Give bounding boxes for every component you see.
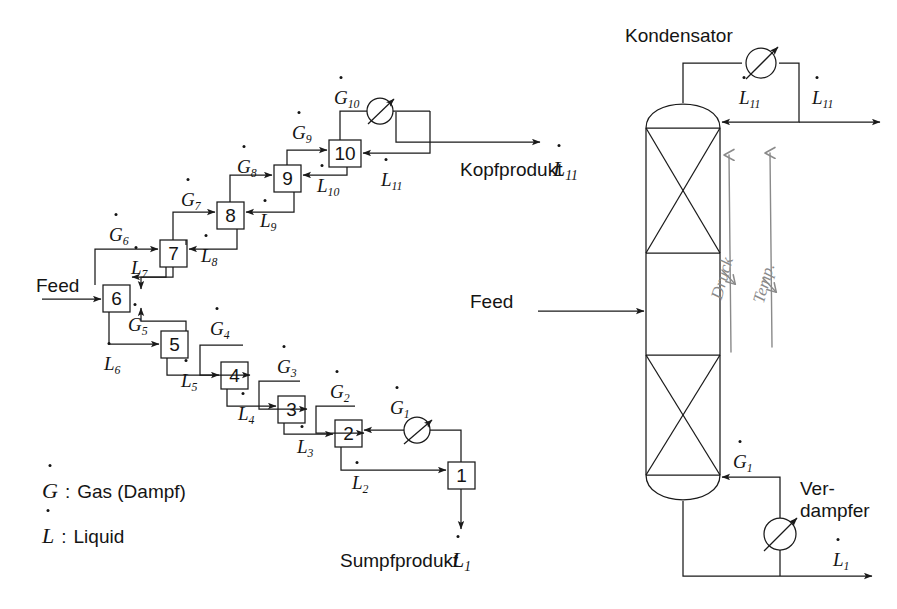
stage-label-1: 1 xyxy=(448,462,475,489)
stage-label-3: 3 xyxy=(278,396,305,423)
stream-symbol-G7: G7 xyxy=(181,190,201,213)
stage-label-7: 7 xyxy=(160,240,187,267)
reboiler-exchanger-column xyxy=(764,518,797,551)
stream-G5 xyxy=(141,308,186,331)
stream-symbol-L11-cascade: L11 xyxy=(381,170,402,193)
stream-symbol-L6: L6 xyxy=(104,354,120,377)
stream-L3 xyxy=(284,423,333,434)
column-packing-upper xyxy=(646,128,720,253)
column-overhead-line xyxy=(683,63,742,103)
stream-L9 xyxy=(246,192,294,212)
legend-row-liquid: L : Liquid xyxy=(42,523,124,549)
legend-colon-liquid: : xyxy=(61,526,66,548)
kopfprodukt-label: Kopfprodukt xyxy=(460,160,562,179)
stream-symbol-G2: G2 xyxy=(330,382,350,405)
reboiler-exchanger-cascade xyxy=(404,417,432,444)
stage-label-10: 10 xyxy=(329,140,361,167)
legend-row-gas: G : Gas (Dampf) xyxy=(42,478,186,504)
stream-L2 xyxy=(341,447,446,470)
stream-symbol-G6: G6 xyxy=(109,225,129,248)
stream-symbol-G4: G4 xyxy=(210,319,230,342)
stage-label-9: 9 xyxy=(274,165,301,192)
sumpfprodukt-label: Sumpfprodukt xyxy=(340,551,458,570)
stream-symbol-G5: G5 xyxy=(128,315,148,338)
dot-accent xyxy=(456,535,459,538)
stage-label-8: 8 xyxy=(217,202,244,229)
kopfprodukt-stream-symbol: L11 xyxy=(553,158,578,183)
legend-symbol-gas: G xyxy=(42,478,58,504)
condenser-exchanger-cascade xyxy=(367,98,394,124)
stage-label-4: 4 xyxy=(221,362,248,389)
stream-symbol-L8: L8 xyxy=(201,246,217,269)
stream-symbol-G10: G10 xyxy=(334,88,360,111)
feed-label-cascade: Feed xyxy=(36,276,79,295)
stream-symbol-L11-reflux: L11 xyxy=(739,88,760,111)
stream-symbol-G9: G9 xyxy=(292,123,312,146)
column-packing-lower xyxy=(646,355,720,475)
sumpfprodukt-stream-symbol: L1 xyxy=(452,549,471,574)
stream-symbol-L5: L5 xyxy=(181,371,197,394)
stream-symbol-L11-distillate: L11 xyxy=(812,88,833,111)
stream-symbol-L2: L2 xyxy=(352,473,368,496)
stage-label-5: 5 xyxy=(161,331,188,358)
stream-kopfprodukt-line xyxy=(396,112,540,142)
verdampfer-label-line1: Ver- xyxy=(800,479,835,498)
stage-label-6: 6 xyxy=(103,285,130,312)
stream-symbol-G1: G1 xyxy=(390,398,410,421)
stream-G7 xyxy=(173,212,215,240)
kondensator-label: Kondensator xyxy=(625,26,733,45)
stream-G9 xyxy=(287,150,327,165)
legend-text-gas: Gas (Dampf) xyxy=(77,481,186,503)
stream-G6-riser xyxy=(95,249,158,285)
stream-symbol-L4: L4 xyxy=(238,404,254,427)
stream-symbol-L3: L3 xyxy=(297,437,313,460)
stream-symbol-L1-bottoms: L1 xyxy=(833,550,849,573)
stream-symbol-L9: L9 xyxy=(260,211,276,234)
legend-colon-gas: : xyxy=(65,481,70,503)
feed-label-column: Feed xyxy=(470,292,513,311)
stream-symbol-L10: L10 xyxy=(317,176,339,199)
condenser-exchanger-column xyxy=(746,47,778,79)
stream-symbol-G8: G8 xyxy=(237,157,257,180)
column-profile-arrows xyxy=(722,153,776,352)
legend-text-liquid: Liquid xyxy=(74,526,125,548)
stream-symbol-G3: G3 xyxy=(277,357,297,380)
diagram-canvas: 1 2 3 4 5 6 7 8 9 10 Feed Feed Kondensat… xyxy=(0,0,897,609)
dot-accent xyxy=(557,144,560,147)
stream-symbol-L7: L7 xyxy=(131,258,147,281)
verdampfer-label-line2: dampfer xyxy=(800,501,870,520)
column-shell xyxy=(646,104,720,500)
stage-label-2: 2 xyxy=(335,420,362,447)
stream-symbol-G1-column: G1 xyxy=(733,452,753,475)
legend-symbol-liquid: L xyxy=(42,523,54,549)
stream-L10 xyxy=(303,167,347,175)
